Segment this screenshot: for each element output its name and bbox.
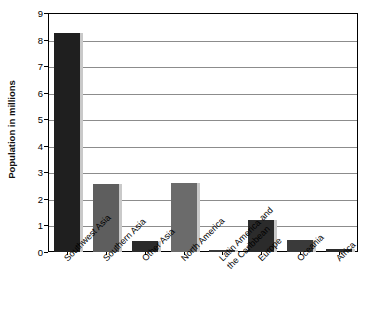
y-tick-label: 5 [8, 114, 48, 125]
y-tick-label: 2 [8, 193, 48, 204]
y-tick-label: 1 [8, 220, 48, 231]
y-axis-ticks: 0123456789 [0, 13, 48, 252]
y-tick-label: 3 [8, 167, 48, 178]
bar-chart: Population in millions 0123456789 Southw… [0, 0, 370, 328]
bar[interactable] [54, 33, 80, 252]
y-tick-label: 6 [8, 87, 48, 98]
y-tick-label: 7 [8, 61, 48, 72]
y-tick-label: 8 [8, 34, 48, 45]
y-tick-label: 4 [8, 140, 48, 151]
y-tick-label: 9 [8, 8, 48, 19]
x-axis-labels: Southwest AsiaSouthern AsiaOther AsiaNor… [48, 252, 358, 328]
y-tick-label: 0 [8, 247, 48, 258]
bars-layer [48, 13, 358, 252]
